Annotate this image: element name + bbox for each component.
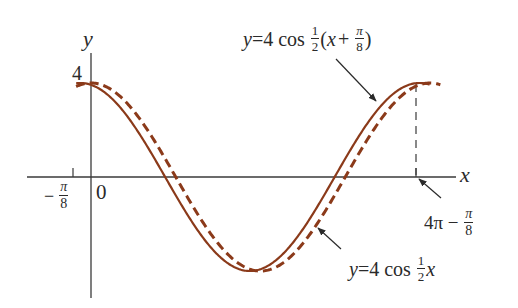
eq-lhs: y [349,259,358,279]
arrow-to-period-mark [419,179,441,198]
denominator: 8 [356,39,363,53]
fraction-pi-over-8: π 8 [464,207,473,238]
shifted-curve-equation: y =4 cos 1 2 ( x + π 8 ) [243,24,371,53]
x-tick-label-neg-pi-over-8: − π 8 [44,180,69,211]
x-tick-label-4pi-minus-pi-over-8: 4π − π 8 [424,207,474,238]
numerator: π [464,207,473,223]
numerator: 1 [417,254,426,269]
open-paren: ( [320,29,327,49]
arrow-to-shifted-curve [336,59,376,101]
denominator: 2 [418,269,425,283]
eq-body: =4 cos [358,259,416,279]
denominator: 2 [312,39,319,53]
eq-lhs: y [243,29,252,49]
numerator: π [355,24,364,39]
denominator: 8 [465,223,472,238]
minus-sign: − [44,187,54,205]
denominator: 8 [60,196,67,211]
x-axis-label: x [460,164,470,186]
origin-label: 0 [96,182,107,203]
eq-x: x [327,29,336,49]
eq-plus: + [338,29,354,49]
fraction-one-half: 1 2 [311,24,320,53]
numerator: π [59,180,68,196]
base-curve-equation: y =4 cos 1 2 x [349,254,435,283]
eq-x: x [426,259,435,279]
y-axis-label: y [83,28,93,50]
fraction-one-half: 1 2 [417,254,426,283]
arrow-to-base-curve [318,228,341,249]
fraction-pi-over-8: π 8 [59,180,68,211]
fraction-pi-over-8: π 8 [355,24,364,53]
four-pi-text: 4π [424,213,443,232]
y-tick-label-4: 4 [72,63,82,83]
close-paren: ) [365,29,372,49]
minus-text: − [443,213,463,232]
numerator: 1 [311,24,320,39]
eq-body: =4 cos [252,29,310,49]
